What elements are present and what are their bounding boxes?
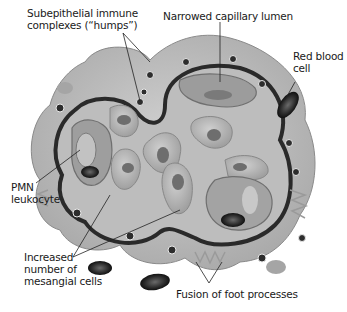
label-line: Subepithelial immune <box>27 7 138 19</box>
label-line: mesangial cells <box>24 275 102 287</box>
label-pmn-leukocyte: PMN leukocyte <box>11 181 60 205</box>
label-subepithelial-immune-complexes: Subepithelial immune complexes (“humps”) <box>27 7 138 31</box>
label-fusion-of-foot-processes: Fusion of foot processes <box>176 288 298 300</box>
label-narrowed-capillary-lumen: Narrowed capillary lumen <box>163 10 293 22</box>
label-line: Increased <box>24 251 102 263</box>
label-line: number of <box>24 263 102 275</box>
label-line: complexes (“humps”) <box>27 19 138 31</box>
label-line: leukocyte <box>11 193 60 205</box>
pmn-leukocyte <box>76 133 96 167</box>
label-increased-mesangial-cells: Increased number of mesangial cells <box>24 251 102 287</box>
label-line: PMN <box>11 181 60 193</box>
label-line: Fusion of foot processes <box>176 288 298 300</box>
label-red-blood-cell: Red blood cell <box>293 50 344 74</box>
label-line: Narrowed capillary lumen <box>163 10 293 22</box>
red-blood-cell <box>139 272 171 293</box>
label-line: Red blood <box>293 50 344 62</box>
label-line: cell <box>293 62 344 74</box>
